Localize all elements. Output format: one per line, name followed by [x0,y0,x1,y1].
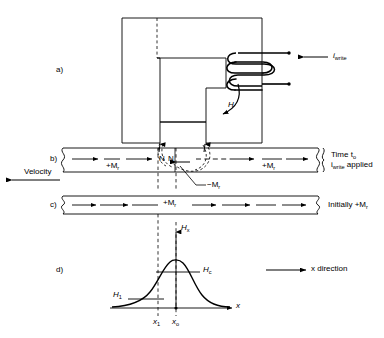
fringing-field-lines [158,143,210,171]
panel-a-letter: a) [56,66,63,74]
write-head-outline [122,18,262,143]
lead-terminal-dots [287,51,290,85]
axis-point-markers [174,306,177,309]
reversed-magnetization-sub: r [218,184,220,190]
velocity-label: Velocity [24,168,52,176]
right-magnetization-sub-b: r [273,165,275,171]
pole-label-left: N [159,155,165,163]
x-direction-text: direction [315,264,347,273]
coercivity-label: Hc [203,266,212,274]
pole-label-right: N [168,155,174,163]
time-label: Time t [331,150,353,159]
initial-state-text: Initially +M [328,200,366,209]
reversed-magnetization-label: −Mr [207,181,220,189]
x-direction-legend-label: x direction [311,265,347,273]
left-magnetization-sub-b: r [117,165,119,171]
y-axis-symbol: H [181,223,187,232]
h-field-label: H [228,101,234,109]
y-axis-label-d: Hx [181,224,190,232]
reversed-magnetization-symbol: −M [207,180,218,189]
h1-sub: 1 [119,294,122,300]
right-magnetization-symbol-b: +M [262,161,273,170]
panel-b-letter: b) [50,155,57,163]
panel-d-letter: d) [56,266,63,274]
time-annotation-line1: Time to [331,150,373,160]
left-magnetization-label-b: +Mr [106,162,119,170]
panel-c-letter: c) [50,201,57,209]
field-profile-axes [110,232,232,308]
coercivity-symbol: H [203,265,209,274]
initial-state-label-c: Initially +Mr [328,201,368,209]
applied-current-sub: write [333,164,345,170]
h1-label: H1 [113,291,122,299]
x0-tick-label: xo [172,318,179,326]
x1-tick-label: x1 [153,318,160,326]
right-magnetization-label-b: +Mr [262,162,275,170]
x0-sub: o [176,321,179,327]
time-annotation-line2: iwrite applied [331,160,373,170]
time-annotation-b: Time to iwrite applied [331,150,373,170]
medium-strip-b [61,148,319,172]
x-axis-label-d: x [236,302,240,310]
brace-b-right [322,148,324,172]
h1-symbol: H [113,290,119,299]
applied-text: applied [345,160,373,169]
write-current-subscript: write [335,55,347,61]
h-field-curved-arrow [223,84,239,114]
write-current-label: iwrite [333,52,347,60]
figure-root: a) iwrite H b) Velocity +Mr +Mr N N −Mr … [0,0,384,338]
time-label-sub: o [353,154,356,160]
figure-svg [0,0,384,338]
coercivity-sub: c [209,269,212,275]
magnetization-sub-c: r [174,202,176,208]
left-magnetization-symbol-b: +M [106,161,117,170]
y-axis-sub: x [187,227,190,233]
magnetization-label-c: +Mr [163,199,176,207]
coil-leads [228,53,290,86]
initial-state-sub: r [366,204,368,210]
field-profile-curve [112,260,230,307]
x1-sub: 1 [157,321,160,327]
magnetization-symbol-c: +M [163,198,174,207]
